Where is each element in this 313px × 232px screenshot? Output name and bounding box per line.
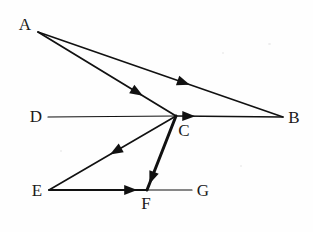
node-label-f: F bbox=[141, 195, 150, 212]
edges-group bbox=[38, 32, 283, 190]
node-label-g: G bbox=[197, 182, 209, 199]
arrowhead-c-f bbox=[149, 170, 158, 184]
node-label-a: A bbox=[19, 16, 31, 33]
arrowhead-e-f bbox=[124, 185, 137, 195]
node-label-c: C bbox=[178, 122, 189, 139]
graph-svg bbox=[0, 0, 313, 232]
edge-d-c bbox=[48, 116, 176, 117]
arrowhead-a-c bbox=[129, 85, 143, 96]
diagram-canvas: ABCDEFG bbox=[0, 0, 313, 232]
node-label-b: B bbox=[288, 109, 299, 126]
node-label-e: E bbox=[32, 182, 42, 199]
arrowhead-c-e bbox=[110, 144, 124, 155]
arrowhead-a-b bbox=[176, 76, 190, 85]
edge-a-c bbox=[38, 32, 176, 116]
node-label-d: D bbox=[30, 108, 42, 125]
edge-a-b bbox=[38, 32, 283, 117]
